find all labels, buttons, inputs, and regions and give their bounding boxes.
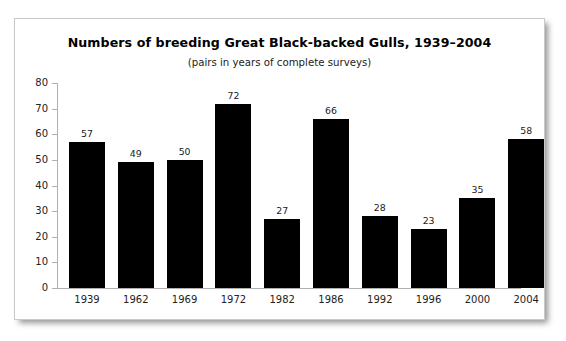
plot-area: 01020304050607080 57495072276628233558 1…: [15, 19, 544, 319]
bar: [508, 139, 544, 288]
bar-value-label: 72: [215, 91, 251, 100]
bar: [118, 162, 154, 288]
y-axis-tick-label: 60: [15, 129, 48, 139]
y-axis-tick: [52, 237, 57, 238]
bar: [264, 219, 300, 288]
bar: [167, 160, 203, 288]
bar-value-label: 66: [313, 106, 349, 115]
chart-card: Numbers of breeding Great Black-backed G…: [14, 18, 545, 320]
y-axis-tick-label: 10: [15, 257, 48, 267]
bar: [411, 229, 447, 288]
y-axis-tick-label: 40: [15, 181, 48, 191]
x-axis-tick-label: 1992: [357, 295, 403, 305]
bar: [215, 104, 251, 289]
y-axis-tick: [52, 109, 57, 110]
y-axis-tick: [52, 160, 57, 161]
bar-value-label: 50: [167, 147, 203, 156]
bar-value-label: 23: [411, 216, 447, 225]
bar: [362, 216, 398, 288]
y-axis-line: [57, 83, 58, 289]
x-axis-tick-label: 2000: [454, 295, 500, 305]
y-axis-tick: [52, 262, 57, 263]
bar-value-label: 49: [118, 149, 154, 158]
y-axis-tick-label: 70: [15, 104, 48, 114]
x-axis-tick-label: 1982: [259, 295, 305, 305]
y-axis-tick-label: 30: [15, 206, 48, 216]
y-axis-tick: [52, 288, 57, 289]
bar-value-label: 28: [362, 203, 398, 212]
bar-value-label: 58: [508, 126, 544, 135]
y-axis-tick: [52, 186, 57, 187]
x-axis-tick-label: 1972: [210, 295, 256, 305]
y-axis-tick: [52, 83, 57, 84]
x-axis-tick-label: 1962: [113, 295, 159, 305]
bar-value-label: 57: [69, 129, 105, 138]
y-axis-tick: [52, 211, 57, 212]
x-axis-tick-label: 1939: [64, 295, 110, 305]
x-axis-tick-label: 1969: [162, 295, 208, 305]
bar: [69, 142, 105, 288]
x-axis-line: [57, 288, 521, 289]
y-axis-tick-label: 0: [15, 283, 48, 293]
y-axis-tick: [52, 134, 57, 135]
bar: [313, 119, 349, 288]
x-axis-tick-label: 1986: [308, 295, 354, 305]
x-axis-tick-label: 1996: [406, 295, 452, 305]
y-axis-tick-label: 20: [15, 232, 48, 242]
y-axis-tick-label: 80: [15, 78, 48, 88]
bar-value-label: 27: [264, 206, 300, 215]
y-axis-tick-label: 50: [15, 155, 48, 165]
bar: [459, 198, 495, 288]
x-axis-tick-label: 2004: [503, 295, 549, 305]
bar-value-label: 35: [459, 185, 495, 194]
